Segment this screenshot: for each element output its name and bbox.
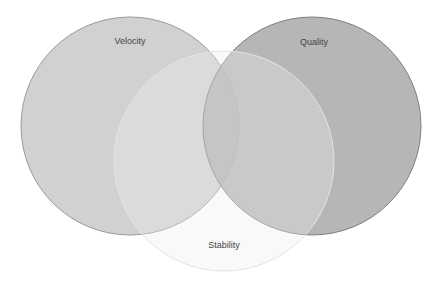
label-quality: Quality [300,37,329,47]
label-stability: Stability [208,240,240,250]
venn-diagram: Velocity Quality Stability [0,0,441,284]
label-velocity: Velocity [114,36,146,46]
circle-stability [114,51,334,271]
